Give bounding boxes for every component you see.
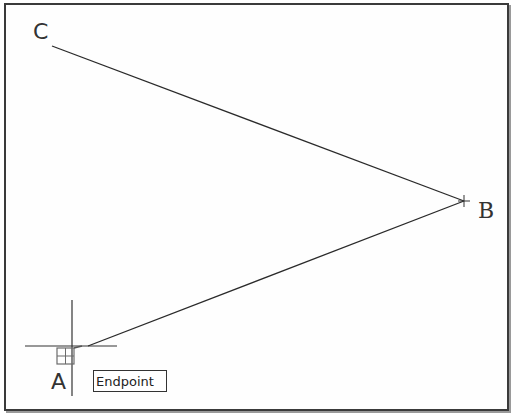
point-label-b: B: [478, 200, 494, 222]
drawing-canvas[interactable]: [0, 0, 517, 417]
line-b-to-a[interactable]: [88, 201, 464, 346]
point-b-marker-icon: [458, 195, 470, 207]
line-c-to-b[interactable]: [52, 46, 464, 201]
point-label-c: C: [33, 21, 48, 43]
point-label-a: A: [51, 371, 66, 393]
endpoint-snap-marker-icon: [57, 346, 82, 364]
endpoint-snap-tooltip: Endpoint: [93, 370, 167, 392]
